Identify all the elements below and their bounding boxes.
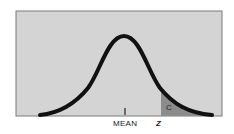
mean-label: MEAN bbox=[113, 119, 137, 128]
tail-area-label: C bbox=[166, 103, 172, 112]
normal-curve-diagram: C bbox=[0, 0, 234, 134]
z-label: Z bbox=[156, 119, 161, 128]
plot-panel bbox=[16, 11, 222, 116]
